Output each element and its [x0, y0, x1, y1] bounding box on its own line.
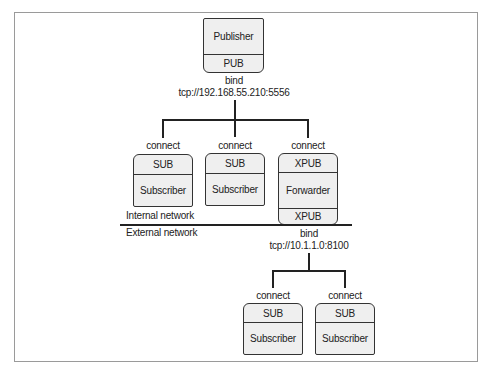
forwarder-label: Forwarder — [279, 172, 337, 208]
subscriber-2-label: Subscriber — [206, 173, 264, 205]
subscriber-node-3: SUB Subscriber — [243, 303, 303, 355]
branch-line-3 — [307, 119, 309, 138]
subscriber-node-4: SUB Subscriber — [315, 303, 375, 355]
publisher-socket: PUB — [204, 54, 263, 72]
forwarder-bind-action: bind — [259, 228, 359, 240]
connect-label-2: connect — [205, 140, 265, 152]
subscriber-3-socket: SUB — [244, 304, 302, 322]
publisher-label: Publisher — [204, 19, 263, 54]
forwarder-node: XPUB Forwarder XPUB — [278, 153, 338, 225]
subscriber-1-socket: SUB — [134, 155, 192, 174]
forwarder-trunk-line — [308, 253, 310, 271]
connect-label-5: connect — [315, 290, 375, 302]
lower-branch-line-1 — [272, 270, 274, 288]
forwarder-bind-endpoint: tcp://10.1.1.0:8100 — [249, 240, 369, 252]
publisher-node: Publisher PUB — [203, 18, 264, 73]
branch-line-1 — [162, 119, 164, 138]
forwarder-top-socket: XPUB — [279, 154, 337, 172]
connect-label-4: connect — [243, 290, 303, 302]
subscriber-2-socket: SUB — [206, 154, 264, 173]
connect-label-1: connect — [133, 140, 193, 152]
subscriber-1-label: Subscriber — [134, 174, 192, 206]
publisher-bind-endpoint: tcp://192.168.55.210:5556 — [164, 87, 304, 99]
upper-bus-line — [162, 119, 308, 121]
subscriber-3-label: Subscriber — [244, 322, 302, 354]
subscriber-node-1: SUB Subscriber — [133, 154, 193, 207]
network-boundary-line — [120, 224, 352, 226]
forwarder-bottom-socket: XPUB — [279, 208, 337, 224]
lower-bus-line — [272, 270, 346, 272]
subscriber-node-2: SUB Subscriber — [205, 153, 265, 206]
subscriber-4-label: Subscriber — [316, 322, 374, 354]
publisher-bind-action: bind — [184, 75, 284, 87]
lower-branch-line-2 — [344, 270, 346, 288]
internal-network-label: Internal network — [126, 210, 194, 222]
external-network-label: External network — [126, 227, 197, 239]
subscriber-4-socket: SUB — [316, 304, 374, 322]
connect-label-3: connect — [278, 140, 338, 152]
